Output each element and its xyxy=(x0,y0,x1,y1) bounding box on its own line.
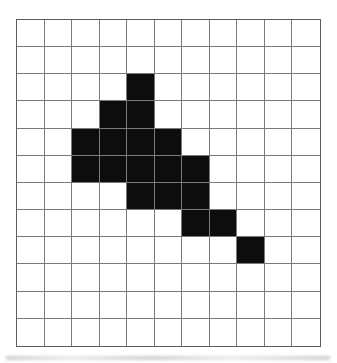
grid-cell xyxy=(72,183,100,210)
grid-cell xyxy=(17,210,45,237)
grid-cell xyxy=(127,237,155,264)
grid-cell xyxy=(182,129,210,156)
grid-cell xyxy=(292,237,320,264)
grid-cell-filled xyxy=(127,74,155,101)
grid-cell xyxy=(100,237,128,264)
grid-cell xyxy=(265,183,293,210)
grid-cell xyxy=(182,47,210,74)
grid-cell xyxy=(17,101,45,128)
grid-cell-filled xyxy=(100,156,128,183)
grid-cell xyxy=(182,101,210,128)
grid-cell xyxy=(265,47,293,74)
grid-cell xyxy=(45,129,73,156)
grid-cell xyxy=(210,183,238,210)
grid-cell xyxy=(17,237,45,264)
grid-cell xyxy=(155,210,183,237)
grid-cell xyxy=(100,74,128,101)
grid-cell xyxy=(155,319,183,346)
grid-cell-filled xyxy=(182,183,210,210)
grid-cell xyxy=(45,237,73,264)
grid-cell xyxy=(265,20,293,47)
grid-cell xyxy=(292,156,320,183)
grid-cell xyxy=(182,74,210,101)
grid-cell xyxy=(155,101,183,128)
grid-cell xyxy=(237,101,265,128)
grid-cell xyxy=(265,237,293,264)
grid-cell xyxy=(72,20,100,47)
grid-cell xyxy=(17,264,45,291)
grid-cell-filled xyxy=(100,101,128,128)
grid-cell xyxy=(100,264,128,291)
grid-cell xyxy=(265,292,293,319)
grid-cell-filled xyxy=(237,237,265,264)
grid-cell xyxy=(100,210,128,237)
grid-cell-filled xyxy=(127,101,155,128)
grid-cell xyxy=(100,183,128,210)
grid-cell xyxy=(127,20,155,47)
grid-cell xyxy=(210,129,238,156)
grid-cell xyxy=(210,101,238,128)
grid-cell xyxy=(265,129,293,156)
grid-cell xyxy=(237,210,265,237)
grid-cell xyxy=(100,319,128,346)
grid-cell xyxy=(210,47,238,74)
grid-cell xyxy=(292,183,320,210)
grid-cell xyxy=(265,74,293,101)
grid-cell xyxy=(265,264,293,291)
grid-cell-filled xyxy=(127,129,155,156)
grid-cell xyxy=(45,156,73,183)
grid-cell xyxy=(100,20,128,47)
grid-cell xyxy=(127,319,155,346)
grid-cell xyxy=(182,20,210,47)
grid-cell xyxy=(265,101,293,128)
grid-cell xyxy=(292,129,320,156)
grid-cell xyxy=(237,183,265,210)
grid-cell xyxy=(155,237,183,264)
grid-cell-filled xyxy=(127,183,155,210)
grid-cell xyxy=(17,74,45,101)
grid-cell xyxy=(265,156,293,183)
grid-cell xyxy=(292,20,320,47)
figure-canvas xyxy=(0,0,337,363)
grid-cell xyxy=(237,264,265,291)
grid-cell xyxy=(155,47,183,74)
grid-cell xyxy=(127,210,155,237)
grid-cell-filled xyxy=(72,156,100,183)
grid-cell xyxy=(72,74,100,101)
grid-cell xyxy=(292,264,320,291)
grid-cell xyxy=(265,210,293,237)
grid-cell xyxy=(45,47,73,74)
grid-cell xyxy=(237,129,265,156)
grid-cell xyxy=(45,101,73,128)
scan-smudge-artifact xyxy=(6,356,330,360)
grid-cell xyxy=(182,319,210,346)
grid-cell xyxy=(17,319,45,346)
grid-cell xyxy=(72,264,100,291)
grid-cell-filled xyxy=(127,156,155,183)
grid-cell-filled xyxy=(182,210,210,237)
grid-cell xyxy=(127,47,155,74)
grid-cell xyxy=(72,292,100,319)
grid-cell xyxy=(237,74,265,101)
grid-cell-filled xyxy=(182,156,210,183)
grid-cell xyxy=(45,264,73,291)
grid-cell xyxy=(17,183,45,210)
grid-cell xyxy=(100,292,128,319)
grid-cell xyxy=(292,47,320,74)
grid-cell xyxy=(45,20,73,47)
grid-cell-filled xyxy=(155,129,183,156)
grid-cell xyxy=(210,156,238,183)
grid-cell xyxy=(155,264,183,291)
grid-cell xyxy=(45,74,73,101)
grid-cell xyxy=(72,237,100,264)
grid-cell xyxy=(237,156,265,183)
grid-cell xyxy=(292,292,320,319)
grid-cell xyxy=(45,210,73,237)
grid-cell xyxy=(72,101,100,128)
grid-cell xyxy=(127,264,155,291)
grid-cell xyxy=(100,47,128,74)
grid-cell xyxy=(210,292,238,319)
pixel-grid xyxy=(16,19,321,347)
grid-cell xyxy=(210,319,238,346)
grid-cell xyxy=(17,292,45,319)
